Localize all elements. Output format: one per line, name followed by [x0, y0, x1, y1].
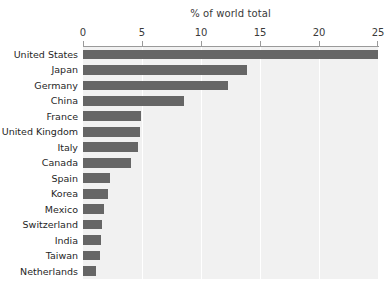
- x-tick-label: 5: [139, 27, 145, 38]
- x-tick-label: 25: [372, 27, 385, 38]
- bar: [83, 251, 100, 261]
- category-label: United States: [0, 47, 78, 62]
- category-label: Switzerland: [0, 217, 78, 232]
- plot-area: [83, 47, 378, 279]
- x-tick-label: 15: [254, 27, 267, 38]
- bar-row: [83, 264, 378, 279]
- bar-row: [83, 155, 378, 170]
- category-label: United Kingdom: [0, 124, 78, 139]
- x-axis: 0510152025: [83, 27, 378, 47]
- category-label: India: [0, 233, 78, 248]
- bar: [83, 204, 104, 214]
- bar: [83, 158, 131, 168]
- bar: [83, 111, 141, 121]
- bar: [83, 142, 138, 152]
- category-label: Taiwan: [0, 248, 78, 263]
- bar-row: [83, 202, 378, 217]
- bar: [83, 127, 140, 137]
- category-label: Italy: [0, 140, 78, 155]
- bar-chart: % of world total 0510152025 United State…: [0, 0, 387, 302]
- category-label: Mexico: [0, 202, 78, 217]
- bar-row: [83, 93, 378, 108]
- bar-rows: [83, 47, 378, 279]
- bar: [83, 220, 102, 230]
- category-label: China: [0, 93, 78, 108]
- category-label: Japan: [0, 62, 78, 77]
- bar-row: [83, 248, 378, 263]
- bar-row: [83, 62, 378, 77]
- bar-row: [83, 186, 378, 201]
- bar-row: [83, 140, 378, 155]
- category-label: Netherlands: [0, 264, 78, 279]
- bar-row: [83, 47, 378, 62]
- category-label: France: [0, 109, 78, 124]
- bar: [83, 235, 101, 245]
- bar-row: [83, 109, 378, 124]
- category-label: Spain: [0, 171, 78, 186]
- x-tick-label: 0: [80, 27, 86, 38]
- y-axis-category-labels: United StatesJapanGermanyChinaFranceUnit…: [0, 47, 78, 279]
- bar-row: [83, 217, 378, 232]
- bar-row: [83, 233, 378, 248]
- bar: [83, 65, 247, 75]
- category-label: Korea: [0, 186, 78, 201]
- category-label: Germany: [0, 78, 78, 93]
- category-label: Canada: [0, 155, 78, 170]
- bar: [83, 81, 228, 91]
- x-tick-label: 10: [195, 27, 208, 38]
- bar: [83, 266, 96, 276]
- x-tick-label: 20: [313, 27, 326, 38]
- bar: [83, 189, 108, 199]
- chart-title: % of world total: [83, 8, 378, 19]
- bar: [83, 173, 110, 183]
- bar: [83, 50, 378, 60]
- bar-row: [83, 78, 378, 93]
- bar: [83, 96, 184, 106]
- bar-row: [83, 124, 378, 139]
- bar-row: [83, 171, 378, 186]
